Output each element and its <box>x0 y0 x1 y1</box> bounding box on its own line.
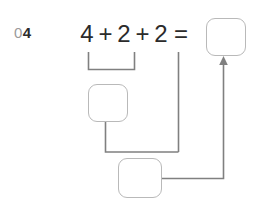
equation-operator-1: + <box>95 20 116 48</box>
result-arrow-path <box>162 62 224 179</box>
step-two-box[interactable] <box>118 158 162 198</box>
equation-operator-2: + <box>132 20 153 48</box>
group-bracket-second-pair <box>106 122 179 152</box>
step-one-box[interactable] <box>88 84 128 122</box>
equals-sign: = <box>169 20 193 48</box>
problem-number-label: 04 <box>14 24 32 41</box>
answer-box[interactable] <box>206 18 246 56</box>
equation-term-3: 2 <box>153 20 169 48</box>
equation-term-2: 2 <box>116 20 132 48</box>
problem-number-prefix: 0 <box>14 24 23 41</box>
equation-row: 4 + 2 + 2 = <box>79 18 193 50</box>
worksheet-problem-canvas: 04 4 + 2 + 2 = <box>0 0 260 214</box>
group-bracket-first-pair <box>89 52 135 70</box>
result-arrow-head-icon <box>219 56 228 65</box>
equation-term-1: 4 <box>79 20 95 48</box>
problem-number-value: 4 <box>23 24 32 41</box>
